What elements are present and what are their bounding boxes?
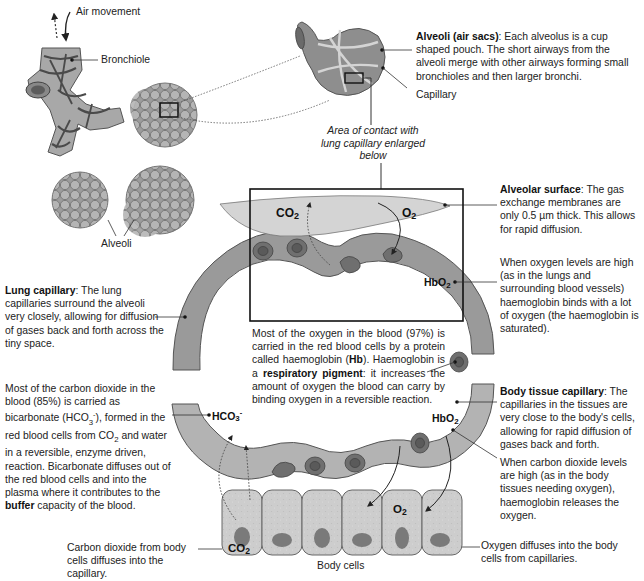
alveoli-heading: Alveoli (air sacs) xyxy=(416,31,499,42)
air-movement-arrows xyxy=(54,12,70,40)
bronchiole-tree-illustration xyxy=(26,48,197,237)
alveolar-surface xyxy=(220,196,497,237)
body-cells-caption: Body cells xyxy=(317,560,364,572)
alveoli-air-sacs-note: Alveoli (air sacs): Each alveolus is a c… xyxy=(416,30,636,83)
hco3-label: HCO3- xyxy=(212,408,242,423)
haemoglobin-note: Most of the oxygen in the blood (97%) is… xyxy=(252,327,445,406)
hbo2-label-tissue: HbO2 xyxy=(432,412,459,426)
lung-capillary-note: Lung capillary: The lung capillaries sur… xyxy=(5,284,165,350)
co2-label-lung: CO2 xyxy=(276,206,299,221)
alveolus-illustration xyxy=(294,22,412,189)
capillary-label: Capillary xyxy=(416,89,456,101)
co2-from-body-cells-note: Carbon dioxide from body cells diffuses … xyxy=(67,541,202,581)
o2-label-lung: O2 xyxy=(402,206,416,221)
hbo2-label-lung: HbO2 xyxy=(424,276,451,290)
body-cells xyxy=(222,490,462,555)
body-tissue-capillary-note: Body tissue capillary: The capillaries i… xyxy=(500,385,642,451)
co2-high-note: When carbon dioxide levels are high (as … xyxy=(500,456,642,522)
zoom-connector-lines xyxy=(178,56,330,123)
oxygen-into-body-cells-note: Oxygen diffuses into the body cells from… xyxy=(481,539,631,565)
alveoli-label: Alveoli xyxy=(101,238,132,250)
co2-label-tissue: CO2 xyxy=(228,542,250,556)
bicarbonate-note: Most of the carbon dioxide in the blood … xyxy=(5,382,175,512)
bronchiole-label: Bronchiole xyxy=(101,54,150,66)
o2-label-tissue: O2 xyxy=(393,503,407,517)
oxygen-high-note: When oxygen levels are high (as in the l… xyxy=(500,256,642,335)
area-of-contact-label: Area of contact with lung capillary enla… xyxy=(318,125,428,163)
air-movement-label: Air movement xyxy=(76,6,140,18)
alveolar-surface-note: Alveolar surface: The gas exchange membr… xyxy=(500,183,640,236)
